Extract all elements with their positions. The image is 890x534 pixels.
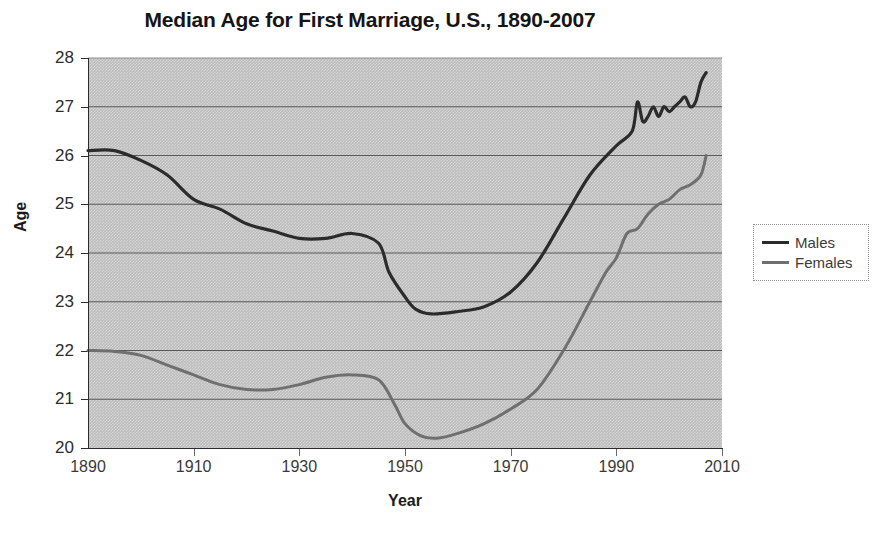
chart-legend: Males Females xyxy=(753,224,869,281)
y-tick-label: 26 xyxy=(30,146,74,166)
legend-item-females: Females xyxy=(762,252,860,272)
y-tick-label: 25 xyxy=(30,194,74,214)
series-line-females xyxy=(88,156,706,439)
x-tick-label: 1990 xyxy=(599,458,635,476)
y-tick-mark xyxy=(81,399,88,400)
y-tick-label: 21 xyxy=(30,389,74,409)
y-tick-mark xyxy=(81,204,88,205)
legend-label-males: Males xyxy=(795,235,835,250)
data-lines xyxy=(88,58,722,448)
x-tick-mark xyxy=(299,449,300,456)
y-tick-label: 24 xyxy=(30,243,74,263)
legend-item-males: Males xyxy=(762,232,860,252)
x-tick-label: 1930 xyxy=(282,458,318,476)
series-line-males xyxy=(88,73,706,314)
x-tick-mark xyxy=(511,449,512,456)
x-tick-mark xyxy=(722,449,723,456)
chart-title: Median Age for First Marriage, U.S., 189… xyxy=(0,8,740,32)
y-tick-mark xyxy=(81,448,88,449)
x-tick-mark xyxy=(194,449,195,456)
x-tick-mark xyxy=(616,449,617,456)
y-tick-mark xyxy=(81,156,88,157)
y-tick-mark xyxy=(81,58,88,59)
x-tick-label: 1910 xyxy=(176,458,212,476)
plot-area xyxy=(88,58,722,448)
y-tick-label: 27 xyxy=(30,97,74,117)
y-tick-label: 28 xyxy=(30,48,74,68)
x-tick-label: 2010 xyxy=(704,458,740,476)
x-tick-mark xyxy=(405,449,406,456)
y-tick-mark xyxy=(81,302,88,303)
x-axis-title: Year xyxy=(88,492,722,510)
x-tick-label: 1890 xyxy=(70,458,106,476)
y-tick-label: 23 xyxy=(30,292,74,312)
y-tick-mark xyxy=(81,107,88,108)
y-tick-mark xyxy=(81,253,88,254)
y-tick-label: 20 xyxy=(30,438,74,458)
x-tick-label: 1950 xyxy=(387,458,423,476)
chart-figure: Median Age for First Marriage, U.S., 189… xyxy=(0,0,890,534)
y-tick-label: 22 xyxy=(30,341,74,361)
legend-label-females: Females xyxy=(795,255,853,270)
y-axis-line xyxy=(88,58,89,449)
x-tick-label: 1970 xyxy=(493,458,529,476)
legend-swatch-males xyxy=(762,241,789,244)
y-axis-title: Age xyxy=(12,202,30,232)
legend-swatch-females xyxy=(762,261,789,264)
